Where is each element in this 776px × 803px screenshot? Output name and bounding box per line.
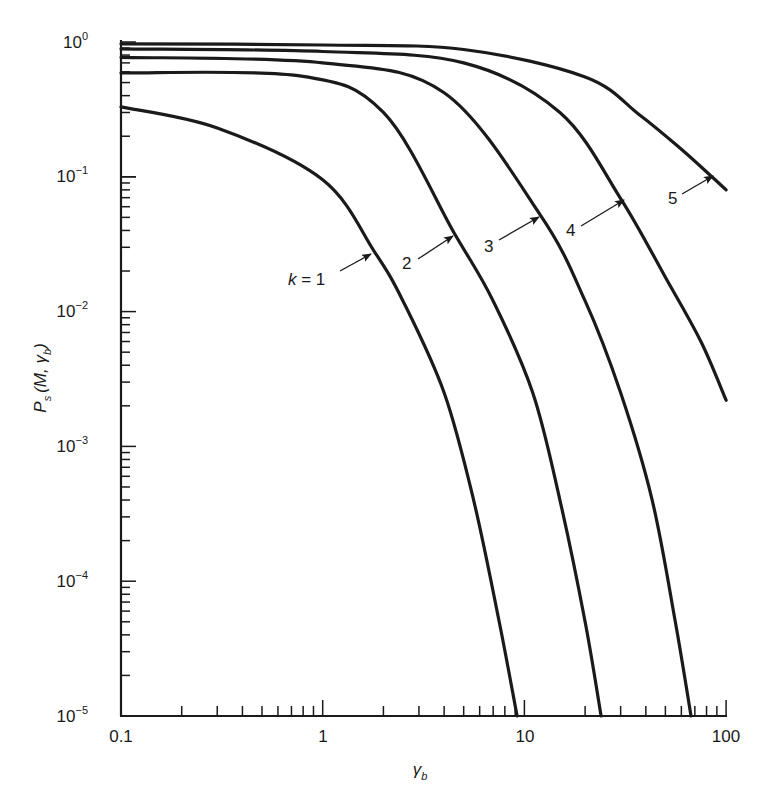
arrow-k3 xyxy=(499,217,539,240)
curve-k3 xyxy=(121,57,691,716)
curve-label-k4: 4 xyxy=(566,221,575,240)
curve-k1 xyxy=(121,107,517,716)
y-tick-label-1e-3: 10−3 xyxy=(57,434,88,456)
y-tick-label-1e-2: 10−2 xyxy=(57,299,88,321)
arrow-k1 xyxy=(340,254,371,271)
x-axis-label: γb xyxy=(413,760,428,782)
y-tick-label-1e-5: 10−5 xyxy=(57,704,88,726)
y-axis-label: Ps(M, γb) xyxy=(31,343,53,412)
curve-k5 xyxy=(121,44,726,190)
y-tick-labels: 100 10−1 10−2 10−3 10−4 10−5 xyxy=(57,30,88,726)
x-tick-label-0.1: 0.1 xyxy=(109,727,133,746)
y-ticks xyxy=(121,42,136,675)
x-ticks xyxy=(121,700,726,716)
x-tick-label-100: 100 xyxy=(712,727,740,746)
axes xyxy=(120,40,727,716)
curves xyxy=(121,44,726,716)
chart: 0.1 1 10 100 100 10−1 10−2 10−3 10−4 10−… xyxy=(0,0,776,803)
x-tick-labels: 0.1 1 10 100 xyxy=(109,727,740,746)
curve-label-k3: 3 xyxy=(484,237,493,256)
x-tick-label-1: 1 xyxy=(318,727,327,746)
x-tick-label-10: 10 xyxy=(516,727,535,746)
curve-annotations: k = 1 2 3 4 5 xyxy=(288,176,713,289)
curve-label-k1: k = 1 xyxy=(288,270,325,289)
curve-k4 xyxy=(121,49,726,400)
y-tick-label-1e0: 100 xyxy=(63,30,88,52)
arrow-k5 xyxy=(682,176,713,194)
curve-label-k2: 2 xyxy=(402,254,411,273)
curve-label-k5: 5 xyxy=(668,189,677,208)
arrow-k4 xyxy=(581,200,624,226)
y-tick-label-1e-4: 10−4 xyxy=(57,569,88,591)
curve-k2 xyxy=(121,72,601,716)
y-tick-label-1e-1: 10−1 xyxy=(57,164,88,186)
arrow-k2 xyxy=(418,236,453,259)
